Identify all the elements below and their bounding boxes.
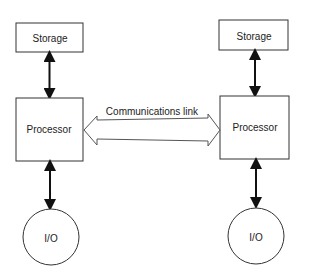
communications-link-label: Communications link — [106, 106, 198, 117]
communications-link-arrow — [84, 114, 220, 146]
right-io-label: I/O — [249, 232, 262, 243]
left-processor-label: Processor — [26, 124, 71, 135]
right-processor-label: Processor — [232, 122, 277, 133]
left-storage-label: Storage — [32, 33, 67, 44]
left-io-label: I/O — [44, 233, 57, 244]
right-storage-label: Storage — [236, 31, 271, 42]
